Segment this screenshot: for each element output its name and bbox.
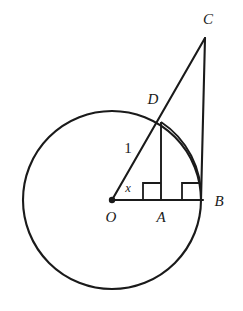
label-point-c: C [203, 11, 214, 27]
geometry-figure: C D B A O 1 x [0, 0, 243, 311]
right-angle-at-A [143, 183, 161, 201]
label-point-d: D [147, 91, 159, 107]
segment-b-to-c-tangent [201, 38, 205, 200]
center-point-dot [109, 197, 115, 203]
label-point-b: B [214, 193, 223, 209]
arc-d-to-b [161, 122, 201, 200]
segment-o-to-c [112, 38, 205, 200]
label-angle-x: x [124, 181, 131, 195]
geometry-diagram-canvas: C D B A O 1 x [0, 0, 243, 311]
label-point-o: O [106, 209, 117, 225]
label-point-a: A [155, 209, 166, 225]
right-angle-at-B [182, 183, 200, 201]
label-radius-length: 1 [124, 140, 132, 156]
